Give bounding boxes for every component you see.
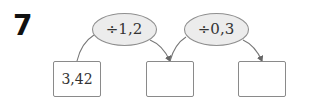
operation-label-2: ÷0,3 [183,12,249,46]
operation-label-1: ÷1,2 [91,12,157,46]
answer-box-2[interactable] [238,61,286,97]
answer-box-1[interactable] [146,61,194,97]
given-value-box: 3,42 [53,61,101,97]
